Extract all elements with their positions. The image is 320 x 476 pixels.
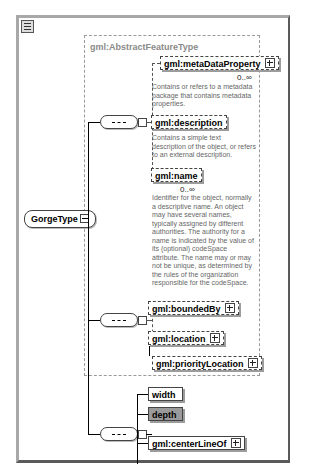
element-location[interactable]: gml:location (148, 331, 224, 345)
root-type-label: GorgeType (31, 214, 78, 224)
sequence-compositor[interactable] (100, 427, 138, 441)
cardinality: 0..∞ (180, 185, 195, 194)
element-centerlineof[interactable]: gml:centerLineOf (148, 436, 245, 450)
element-metadataproperty[interactable]: gml:metaDataProperty (160, 56, 279, 70)
expand-icon[interactable] (265, 58, 275, 68)
element-description-node[interactable]: gml:description (151, 115, 227, 129)
connector (88, 122, 100, 123)
expand-icon[interactable] (210, 333, 220, 343)
expand-icon[interactable] (248, 358, 258, 368)
expand-icon[interactable] (231, 438, 241, 448)
element-description: Contains a simple text description of th… (152, 134, 256, 160)
element-name[interactable]: gml:name (151, 168, 202, 182)
abstract-type-title: gml:AbstractFeatureType (90, 42, 198, 52)
substitution-connector (149, 346, 150, 356)
cardinality: 0..∞ (237, 73, 252, 82)
element-description: Contains or refers to a metadata package… (152, 83, 256, 109)
sequence-compositor[interactable] (100, 115, 138, 129)
connector (88, 434, 100, 435)
expand-icon[interactable] (225, 303, 235, 313)
element-depth[interactable]: depth (148, 407, 183, 421)
connector (88, 320, 100, 321)
sequence-compositor[interactable] (100, 313, 138, 327)
diagram-menu-icon[interactable] (21, 20, 34, 33)
root-type-node[interactable]: GorgeType (24, 210, 96, 228)
element-boundedby[interactable]: gml:boundedBy (148, 301, 239, 315)
element-prioritylocation[interactable]: gml:priorityLocation (152, 356, 262, 370)
connector (88, 122, 89, 435)
element-description: Identifier for the object, normally a de… (152, 194, 256, 288)
element-width[interactable]: width (148, 387, 183, 401)
